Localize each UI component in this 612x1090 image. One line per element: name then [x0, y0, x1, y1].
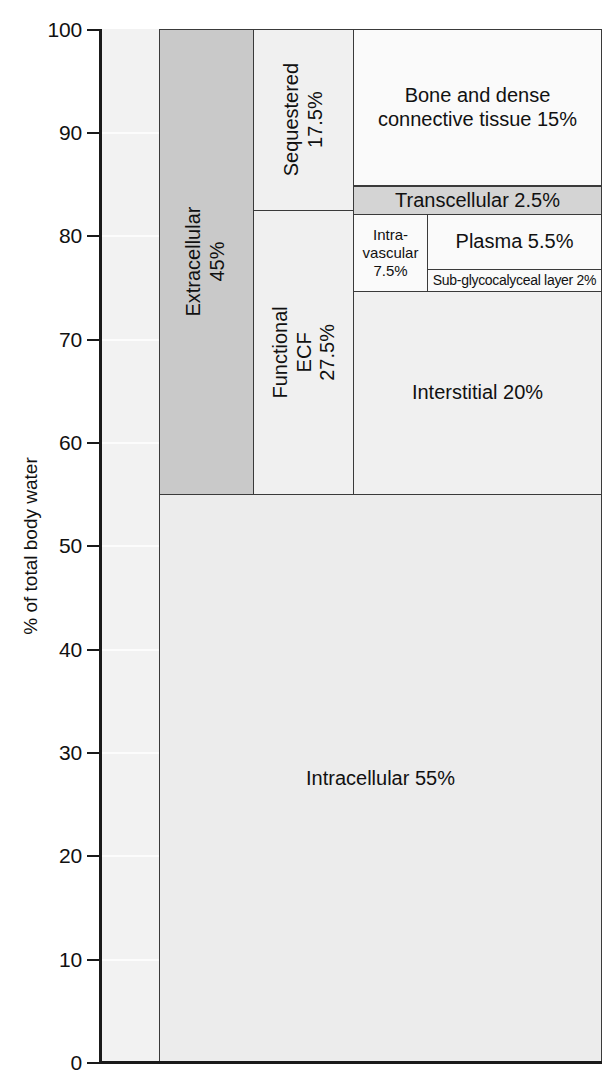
- segment-intracellular: Intracellular 55%: [159, 494, 602, 1063]
- segment-interstitial: Interstitial 20%: [353, 291, 602, 495]
- segment-plasma: Plasma 5.5%: [427, 214, 602, 270]
- segment-sequestered: Sequestered 17.5%: [253, 29, 355, 211]
- segment-intravascular: Intra- vascular 7.5%: [353, 214, 428, 292]
- y-tick-label-80: 80: [22, 225, 82, 246]
- y-tick-label-90: 90: [22, 122, 82, 143]
- segment-bone-and-dense-connective-tissue: Bone and dense connective tissue 15%: [353, 29, 602, 186]
- segment-functional-ecf: Functional ECF 27.5%: [253, 210, 355, 495]
- y-tick-label-20-wrap: 20: [12, 845, 82, 866]
- y-tick-40: [87, 649, 99, 651]
- segment-sequestered-label: Sequestered 17.5%: [280, 63, 327, 176]
- segment-extracellular-label: Extracellular 45%: [183, 207, 230, 317]
- segment-sub-glycocalyceal-label: Sub-glycocalyceal layer 2%: [433, 272, 596, 289]
- y-axis-line: [99, 29, 102, 1064]
- y-tick-label-80-wrap: 80: [12, 225, 82, 246]
- segment-sub-glycocalyceal-layer: Sub-glycocalyceal layer 2%: [427, 269, 602, 292]
- y-tick-0: [87, 1062, 99, 1064]
- y-tick-label-90-wrap: 90: [12, 122, 82, 143]
- y-tick-90: [87, 132, 99, 134]
- segment-transcellular: Transcellular 2.5%: [353, 186, 602, 215]
- y-tick-label-100-wrap: 100: [12, 19, 82, 40]
- y-tick-label-10: 10: [22, 949, 82, 970]
- chart-root: Intracellular 55% Extracellular 45% Sequ…: [0, 0, 612, 1090]
- y-tick-20: [87, 855, 99, 857]
- y-tick-70: [87, 339, 99, 341]
- y-tick-label-10-wrap: 10: [12, 949, 82, 970]
- segment-functional-ecf-label: Functional ECF 27.5%: [269, 303, 340, 403]
- segment-intracellular-label: Intracellular 55%: [306, 767, 455, 791]
- y-tick-label-0-wrap: 0: [12, 1052, 82, 1073]
- y-axis-title: % of total body water: [20, 346, 42, 746]
- segment-bone-label: Bone and dense connective tissue 15%: [378, 84, 577, 131]
- segment-intravascular-label: Intra- vascular 7.5%: [363, 226, 419, 279]
- y-tick-100: [87, 29, 99, 31]
- segment-transcellular-label: Transcellular 2.5%: [395, 189, 560, 213]
- segment-extracellular: Extracellular 45%: [159, 29, 254, 495]
- y-tick-80: [87, 235, 99, 237]
- segment-plasma-label: Plasma 5.5%: [456, 230, 574, 254]
- y-tick-10: [87, 959, 99, 961]
- y-tick-50: [87, 545, 99, 547]
- y-tick-label-100: 100: [22, 19, 82, 40]
- segment-interstitial-label: Interstitial 20%: [412, 381, 543, 405]
- y-tick-60: [87, 442, 99, 444]
- y-tick-label-20: 20: [22, 845, 82, 866]
- x-axis-line: [99, 1061, 602, 1064]
- y-tick-30: [87, 752, 99, 754]
- y-tick-label-0: 0: [22, 1052, 82, 1073]
